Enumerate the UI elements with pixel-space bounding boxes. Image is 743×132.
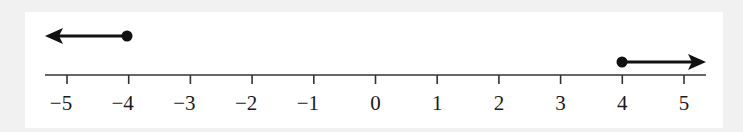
tick-label: −1 [297,91,319,115]
tick-label: 4 [617,91,628,115]
left-ray [45,28,133,44]
tick-label: −3 [173,91,195,115]
tick-label: −5 [50,91,72,115]
tick-group [67,75,684,84]
tick-label: −2 [235,91,257,115]
tick-label: 3 [555,91,566,115]
closed-endpoint-dot-right [617,57,628,68]
tick-label: 1 [432,91,443,115]
tick-label: −4 [112,91,135,115]
closed-endpoint-dot-left [122,31,133,42]
tick-label: 5 [679,91,690,115]
tick-label: 0 [370,91,381,115]
tick-label: 2 [494,91,505,115]
right-ray [617,54,707,70]
tick-label-group: −5−4−3−2−1012345 [50,91,689,115]
number-line: −5−4−3−2−1012345 [0,0,743,132]
